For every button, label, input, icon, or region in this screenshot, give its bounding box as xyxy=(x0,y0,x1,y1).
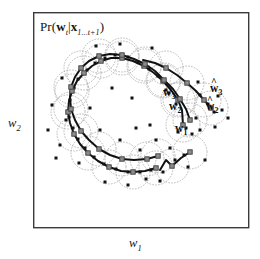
particle-label-what3-symbol: ^w xyxy=(210,82,218,94)
sample-point xyxy=(199,129,202,132)
particle-node xyxy=(82,71,86,75)
particle-node xyxy=(79,129,83,133)
sample-point xyxy=(127,184,130,187)
sample-point xyxy=(197,81,200,84)
figure-root: Pr(wt|x1...t+1) w2 w1 w3 w2 w1 ^w3 ^w2 xyxy=(0,0,260,259)
sample-point xyxy=(78,162,81,165)
particle-node xyxy=(154,166,158,170)
sample-point xyxy=(111,87,114,90)
sample-point xyxy=(61,77,64,80)
hat-accent-icon: ^ xyxy=(211,77,217,87)
sample-point xyxy=(135,127,138,130)
particle-node xyxy=(185,81,189,85)
particle-label-what2-symbol: ^w xyxy=(206,100,214,112)
sample-point xyxy=(99,129,102,132)
particle-node xyxy=(164,66,168,70)
particle-label-w1-symbol: w xyxy=(175,122,183,134)
sample-point xyxy=(145,178,148,181)
particle-node xyxy=(97,147,101,151)
title-close-paren: ) xyxy=(100,19,104,34)
sample-point xyxy=(204,159,207,162)
particle-node xyxy=(99,59,103,63)
particle-node xyxy=(72,132,76,136)
particle-label-w1: w1 xyxy=(175,122,187,137)
particle-node xyxy=(86,151,90,155)
sample-point xyxy=(155,139,158,142)
particle-node xyxy=(143,62,147,66)
sample-point xyxy=(169,147,172,150)
sample-point xyxy=(227,117,230,120)
sample-point xyxy=(55,157,58,160)
sample-point xyxy=(191,133,194,136)
plot-canvas xyxy=(0,0,260,259)
x-axis-label: w1 xyxy=(129,236,142,253)
sample-point xyxy=(221,109,224,112)
title-pr: Pr xyxy=(40,19,52,34)
particle-node xyxy=(120,157,124,161)
particle-node xyxy=(120,53,124,57)
sample-point xyxy=(119,43,122,46)
sample-point xyxy=(65,119,68,122)
sample-point xyxy=(187,166,190,169)
sample-point xyxy=(59,144,62,147)
sample-point xyxy=(162,171,165,174)
particle-label-what2: ^w2 xyxy=(206,100,218,115)
particle-node xyxy=(97,54,101,58)
y-axis-label-subscript: 2 xyxy=(16,123,20,133)
particle-node xyxy=(145,157,149,161)
sample-point xyxy=(149,124,152,127)
particle-label-w2-symbol: w xyxy=(169,100,177,112)
sample-point xyxy=(89,107,92,110)
title-x-subscript: 1...t+1 xyxy=(77,28,99,37)
particle-node xyxy=(69,107,73,111)
particle-node xyxy=(170,164,174,168)
particle-label-w3: w3 xyxy=(163,86,175,101)
sample-point xyxy=(95,45,98,48)
sample-point xyxy=(159,180,162,183)
sample-point xyxy=(139,149,142,152)
particle-node xyxy=(131,170,135,174)
particle-node xyxy=(188,150,192,154)
sample-point xyxy=(151,47,154,50)
sample-point xyxy=(104,181,107,184)
particle-node xyxy=(107,165,111,169)
sample-point xyxy=(131,97,134,100)
particle-node xyxy=(69,85,73,89)
sample-point xyxy=(47,129,50,132)
particle-node xyxy=(188,118,192,122)
plot-title: Pr(wt|x1...t+1) xyxy=(40,19,104,37)
sample-point xyxy=(174,159,177,162)
sample-point xyxy=(214,126,217,129)
particle-node xyxy=(79,66,83,70)
particle-label-what2-subscript: 2 xyxy=(214,106,218,115)
particle-node xyxy=(162,78,166,82)
particle-label-w3-symbol: w xyxy=(163,86,171,98)
sample-point xyxy=(119,139,122,142)
x-axis-label-subscript: 1 xyxy=(137,243,141,253)
sample-point xyxy=(51,104,54,107)
hat-accent-icon: ^ xyxy=(207,95,213,105)
particle-label-w1-subscript: 1 xyxy=(183,128,187,137)
particle-node xyxy=(156,154,160,158)
particle-label-w2: w2 xyxy=(169,100,181,115)
particle-label-w2-subscript: 2 xyxy=(177,106,181,115)
sample-point xyxy=(195,117,198,120)
title-w-symbol: w xyxy=(56,19,66,34)
particle-label-what3-subscript: 3 xyxy=(218,88,222,97)
y-axis-label: w2 xyxy=(8,116,21,133)
